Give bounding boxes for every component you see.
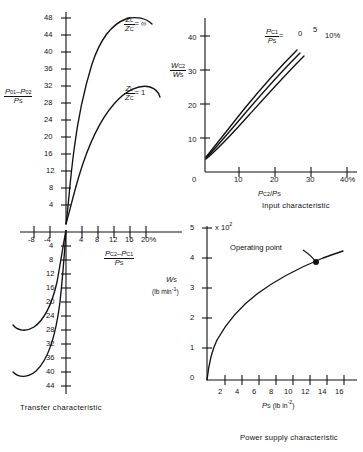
supply-ytick-1: 1 xyxy=(190,344,194,352)
supply-ytick-3: 3 xyxy=(190,284,194,292)
transfer-upper-ytick-28: 28 xyxy=(44,99,52,107)
transfer-lower-ytick-4: 4 xyxy=(49,242,53,250)
supply-y-units-end: ) xyxy=(177,288,179,295)
supply-xtick-12: 12 xyxy=(301,388,309,396)
operating-point-annotation: Operating point xyxy=(230,244,282,252)
input-xtick-20: 20 xyxy=(270,176,278,184)
transfer-upper-ytick-16: 16 xyxy=(44,150,52,158)
input-series-value-0: 0 xyxy=(298,30,302,38)
supply-y-sym-sub: S xyxy=(173,277,177,283)
transfer-upper-ytick-44: 44 xyxy=(44,31,52,39)
curve-zl-zc-infinity-negative xyxy=(13,230,66,376)
curve-zl-zc-one xyxy=(66,86,160,224)
transfer-upper-ytick-4: 4 xyxy=(49,201,53,209)
zl-one-num-sub: L xyxy=(130,86,133,92)
figure-container: 48 44 40 36 32 28 24 20 16 12 8 4 P01–P0… xyxy=(0,0,363,452)
transfer-lower-ytick-44: 44 xyxy=(46,382,54,390)
power-supply-characteristic-caption: Power supply characteristic xyxy=(240,434,338,442)
power-supply-characteristic-panel xyxy=(185,212,363,412)
curve-label-zl-zc-infinity: ZL ZC = ∞ xyxy=(124,16,147,32)
transfer-lower-ytick-16: 16 xyxy=(46,284,54,292)
zl-inf-value: ∞ xyxy=(141,19,146,28)
curve-pc1-ps-5 xyxy=(206,53,300,158)
curve-pc1-ps-0 xyxy=(206,50,297,157)
transfer-y-axis-label: P01–P02 PS xyxy=(4,88,32,104)
transfer-upper-ytick-24: 24 xyxy=(44,116,52,124)
supply-xtick-16: 16 xyxy=(335,388,343,396)
curve-zl-zc-infinity xyxy=(66,18,152,224)
curve-pc1-ps-10 xyxy=(206,56,304,159)
input-series-den-sub: S xyxy=(273,38,277,44)
input-series-num-sub: C1 xyxy=(271,29,278,35)
supply-x-units-end: ) xyxy=(292,402,294,409)
supply-y-axis-label: WS xyxy=(166,276,177,284)
input-x-axis-label: PC2/PS xyxy=(258,190,281,198)
transfer-upper-ytick-20: 20 xyxy=(44,133,52,141)
curve-label-zl-zc-one: ZL ZC = 1 xyxy=(124,85,145,101)
input-xtick-30: 30 xyxy=(306,176,314,184)
transfer-characteristic-caption: Transfer characteristic xyxy=(20,404,102,412)
transfer-upper-ytick-36: 36 xyxy=(44,65,52,73)
supply-x-sym-sub: S xyxy=(267,403,271,409)
supply-xtick-8: 8 xyxy=(269,388,273,396)
input-y-den: W xyxy=(173,70,180,79)
transfer-lower-ytick-12: 12 xyxy=(46,270,54,278)
supply-x-units: (lb in xyxy=(273,402,288,409)
supply-ytick-2: 2 xyxy=(190,314,194,322)
input-ytick-10: 10 xyxy=(188,136,196,144)
transfer-y-num-p2-sub: 02 xyxy=(25,89,31,95)
input-y-num-sub: C2 xyxy=(178,63,185,69)
supply-ytick-5: 5 xyxy=(190,224,194,232)
supply-xtick-10: 10 xyxy=(284,388,292,396)
input-ytick-20: 20 xyxy=(188,102,196,110)
input-series-label: PC1 PS = xyxy=(265,28,283,44)
transfer-lower-ytick-32: 32 xyxy=(46,340,54,348)
supply-y-scale: x 10 xyxy=(215,223,229,232)
input-x-den-sub: S xyxy=(277,191,281,197)
supply-y-scale-exp: 2 xyxy=(229,221,232,227)
input-y-axis-label: WC2 WS xyxy=(170,62,186,78)
operating-point-leader-line xyxy=(303,250,315,261)
zl-one-den-sub: C xyxy=(130,95,134,101)
input-series-value-5: 5 xyxy=(313,26,317,34)
transfer-upper-ytick-8: 8 xyxy=(49,184,53,192)
input-characteristic-caption: Input characteristic xyxy=(262,202,330,210)
transfer-upper-ytick-32: 32 xyxy=(44,82,52,90)
input-series-value-10pct: 10% xyxy=(325,32,340,40)
zl-inf-den-sub: C xyxy=(130,26,134,32)
zl-inf-num-sub: L xyxy=(130,17,133,23)
transfer-lower-ytick-28: 28 xyxy=(46,326,54,334)
supply-ytick-0: 0 xyxy=(190,374,194,382)
input-xtick-10: 10 xyxy=(234,176,242,184)
input-ytick-30: 30 xyxy=(188,68,196,76)
transfer-lower-ytick-20: 20 xyxy=(46,298,54,306)
supply-xtick-6: 6 xyxy=(252,388,256,396)
supply-xtick-2: 2 xyxy=(218,388,222,396)
input-y-den-sub: S xyxy=(180,72,184,78)
input-x-num-sub: C2 xyxy=(263,191,270,197)
input-xtick-40pct: 40% xyxy=(340,176,355,184)
transfer-characteristic-upper-panel xyxy=(0,0,190,232)
supply-ytick-4: 4 xyxy=(190,254,194,262)
transfer-upper-ytick-48: 48 xyxy=(44,14,52,22)
input-ytick-40: 40 xyxy=(188,34,196,42)
transfer-lower-ytick-8: 8 xyxy=(49,256,53,264)
transfer-upper-ytick-12: 12 xyxy=(46,167,54,175)
supply-y-units: (lb min xyxy=(152,288,172,295)
input-series-eq: = xyxy=(279,31,283,40)
supply-y-axis-units: (lb min-1) xyxy=(152,287,179,296)
supply-x-axis-label: PS (lb in-2) xyxy=(262,400,295,409)
transfer-upper-ytick-40: 40 xyxy=(44,48,52,56)
transfer-y-den-sub: S xyxy=(19,98,23,104)
curve-power-supply xyxy=(207,251,343,380)
zl-one-value: 1 xyxy=(141,88,145,97)
transfer-lower-ytick-36: 36 xyxy=(46,354,54,362)
supply-y-scale-multiplier: x 102 xyxy=(215,222,232,231)
input-xtick-0: 0 xyxy=(192,176,196,184)
supply-xtick-14: 14 xyxy=(318,388,326,396)
transfer-characteristic-lower-panel xyxy=(0,230,190,415)
transfer-lower-ytick-24: 24 xyxy=(46,312,54,320)
supply-xtick-4: 4 xyxy=(235,388,239,396)
transfer-lower-ytick-40: 40 xyxy=(46,368,54,376)
